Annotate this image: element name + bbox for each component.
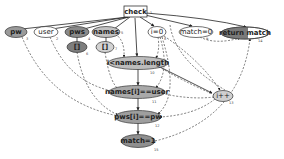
svg-text:i<names.length: i<names.length [107, 59, 169, 67]
dependence-graph: check 1 pw 3 user 2 pws 4 names 5 [] 6 [… [0, 0, 284, 159]
node-label: check [124, 8, 147, 16]
svg-text:[]: [] [102, 43, 108, 51]
svg-text:14: 14 [258, 39, 263, 43]
svg-text:11: 11 [152, 100, 156, 104]
node-names-array[interactable]: [] 7 [96, 42, 117, 53]
node-match-init[interactable]: match=0 9 [179, 27, 213, 42]
svg-text:5: 5 [121, 31, 123, 35]
svg-text:pws[i]==pw: pws[i]==pw [114, 113, 162, 121]
svg-text:names[i]==user: names[i]==user [105, 88, 169, 96]
svg-text:match=0: match=0 [180, 28, 212, 36]
node-user[interactable]: user 2 [34, 27, 58, 42]
node-pws[interactable]: pws 4 [65, 27, 91, 42]
svg-text:match=1: match=1 [120, 137, 155, 145]
svg-text:3: 3 [26, 37, 28, 41]
svg-text:12: 12 [155, 124, 159, 128]
svg-text:return match: return match [219, 29, 271, 37]
node-names[interactable]: names 5 [92, 27, 123, 38]
svg-text:1: 1 [150, 11, 152, 15]
svg-text:8: 8 [164, 37, 166, 41]
svg-text:6: 6 [86, 52, 88, 56]
svg-text:15: 15 [154, 148, 158, 152]
svg-text:[]: [] [74, 43, 80, 51]
node-match-set[interactable]: match=1 15 [120, 135, 158, 153]
node-pw[interactable]: pw 3 [5, 27, 28, 42]
svg-text:pw: pw [10, 28, 22, 36]
svg-text:9: 9 [206, 37, 208, 41]
svg-text:names: names [93, 28, 119, 36]
svg-text:pws: pws [69, 28, 85, 36]
svg-text:7: 7 [115, 47, 117, 51]
node-names-compare[interactable]: names[i]==user 11 [105, 86, 169, 105]
svg-text:4: 4 [88, 37, 91, 41]
svg-text:2: 2 [56, 37, 58, 41]
node-i-init[interactable]: i=0 8 [148, 27, 166, 42]
svg-text:10: 10 [150, 71, 154, 75]
svg-text:i=0: i=0 [151, 28, 163, 36]
svg-text:i++: i++ [216, 92, 230, 100]
svg-text:13: 13 [229, 101, 233, 105]
node-return-match[interactable]: return match 14 [219, 27, 271, 43]
svg-text:user: user [38, 28, 53, 36]
